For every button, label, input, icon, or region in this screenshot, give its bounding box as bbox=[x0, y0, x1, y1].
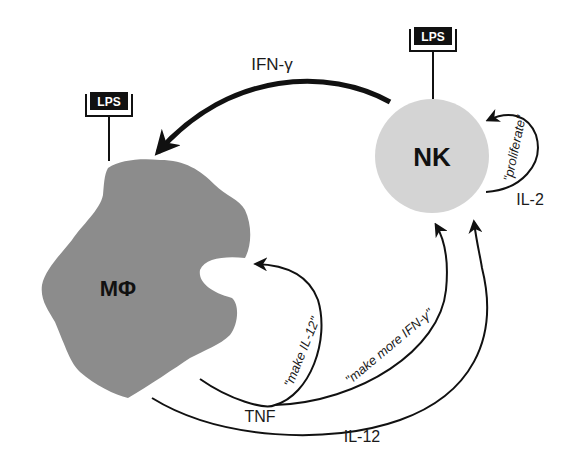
macrophage-cell bbox=[42, 159, 251, 398]
proliferate-annotation: "proliferate" bbox=[500, 113, 529, 183]
diagram-canvas: MΦ NK LPS LPS IFN-γ IL-2 "proliferate" "… bbox=[0, 0, 583, 472]
il2-label: IL-2 bbox=[516, 191, 544, 208]
macrophage-label: MΦ bbox=[100, 276, 136, 301]
ifn-gamma-arrow bbox=[158, 81, 390, 152]
make-il12-annotation: "make IL-12" bbox=[281, 313, 323, 389]
tnf-label: TNF bbox=[244, 408, 275, 425]
macrophage-lps-receptor: LPS bbox=[86, 92, 132, 161]
nk-lps-receptor: LPS bbox=[410, 27, 456, 99]
ifn-gamma-label: IFN-γ bbox=[251, 55, 293, 74]
nk-lps-label: LPS bbox=[421, 30, 444, 44]
macrophage-lps-label: LPS bbox=[97, 95, 120, 109]
il12-label: IL-12 bbox=[344, 428, 381, 445]
make-more-ifn-gamma-annotation: "make more IFN-γ" bbox=[342, 304, 437, 387]
nk-label: NK bbox=[413, 142, 451, 172]
